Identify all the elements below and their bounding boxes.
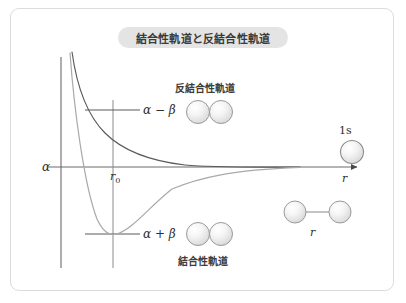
internuclear-distance-label: r	[310, 226, 315, 239]
figure-root: 結合性軌道と反結合性軌道	[0, 0, 406, 303]
1s-orbital-sphere	[341, 141, 364, 164]
r0-label-subscript: 0	[115, 176, 120, 185]
1s-orbital-label: 1s	[339, 124, 352, 137]
antibonding-orbital-caption: 反結合性軌道	[175, 80, 235, 95]
r0-label: r0	[110, 170, 120, 185]
alpha-plus-beta-label: α + β	[143, 227, 176, 241]
alpha-minus-beta-label: α − β	[143, 103, 176, 117]
r-axis-label: r	[342, 172, 347, 185]
antibonding-orbital-spheres	[187, 101, 233, 124]
alpha-axis-label: α	[42, 160, 50, 174]
bonding-orbital-caption: 結合性軌道	[178, 253, 228, 268]
bonding-orbital-spheres	[187, 223, 233, 246]
diatomic-distance-diagram	[284, 201, 351, 223]
